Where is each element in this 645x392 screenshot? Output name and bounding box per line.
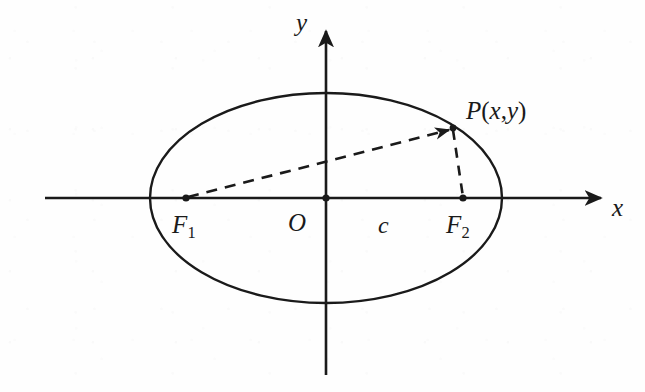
ellipse-figure: y x O F1 F2 c P(x,y) xyxy=(0,0,645,392)
point-p-dot xyxy=(450,125,457,132)
point-p-label-x: x xyxy=(490,97,501,124)
focus-right-label-subscript: 2 xyxy=(461,223,470,242)
point-origin-dot xyxy=(322,194,329,201)
segment-p-to-f2 xyxy=(453,130,463,197)
point-p-label-close-paren: ) xyxy=(518,97,526,124)
origin-label: O xyxy=(288,210,306,235)
point-p-label-y: y xyxy=(507,97,518,124)
point-p-label-base: P xyxy=(466,97,481,124)
segment-f1-to-p xyxy=(188,130,449,197)
semi-focal-distance-label: c xyxy=(378,213,389,237)
diagram-canvas xyxy=(0,0,645,392)
y-axis-label: y xyxy=(296,10,307,35)
focus-right-label: F2 xyxy=(446,212,470,241)
focus-left-label: F1 xyxy=(172,212,196,241)
focus-left-label-subscript: 1 xyxy=(187,223,196,242)
point-focus-left-dot xyxy=(182,194,189,201)
x-axis-label: x xyxy=(612,195,623,220)
point-p-label: P(x,y) xyxy=(466,98,526,123)
focus-right-label-base: F xyxy=(446,211,461,238)
point-focus-right-dot xyxy=(459,194,466,201)
point-p-label-open-paren: ( xyxy=(481,97,489,124)
focus-left-label-base: F xyxy=(172,211,187,238)
